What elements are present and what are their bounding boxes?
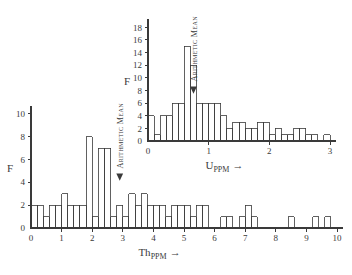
histogram-bar	[43, 217, 49, 228]
x-tick-label: 10	[333, 233, 343, 243]
histogram-bar	[31, 205, 37, 228]
histogram-bar	[275, 128, 281, 141]
thorium-histogram-y-axis-title: F	[7, 162, 13, 174]
histogram-bar	[245, 205, 251, 228]
histogram-bar	[313, 217, 319, 228]
histogram-figure: 0123246810121416180FUPPM→Arithmetic Mean…	[0, 0, 352, 275]
y-tick-label: 6	[21, 155, 26, 165]
y-tick-label: 16	[133, 35, 143, 45]
histogram-bar	[215, 103, 221, 141]
thorium-histogram-group: 0123456789102468100FThPPM→Arithmetic Mea…	[7, 103, 343, 261]
x-tick-label: 1	[59, 233, 64, 243]
histogram-bar	[86, 137, 92, 228]
x-tick-label: 5	[182, 233, 187, 243]
histogram-bar	[251, 217, 257, 228]
histogram-bar	[325, 217, 331, 228]
histogram-bar	[257, 122, 263, 141]
histogram-bar	[196, 205, 202, 228]
histogram-bar	[147, 205, 153, 228]
x-tick-label: 6	[212, 233, 217, 243]
histogram-bar	[221, 116, 227, 141]
x-tick-label: 2	[267, 146, 272, 156]
uranium-histogram-group: 0123246810121416180FUPPM→Arithmetic Mean	[124, 16, 336, 174]
y-tick-label: 2	[138, 124, 143, 134]
mean-arrow-icon	[190, 86, 197, 93]
mean-arrow-icon	[116, 173, 123, 180]
histogram-bar	[227, 128, 233, 141]
y-tick-label: 12	[133, 60, 142, 70]
uranium-histogram-bars	[148, 46, 330, 141]
histogram-bar	[221, 217, 227, 228]
x-axis-title-text: ThPPM→	[138, 246, 180, 261]
histogram-bar	[166, 116, 172, 141]
x-tick-label: 1	[206, 146, 211, 156]
histogram-bar	[92, 217, 98, 228]
x-tick-label: 8	[274, 233, 279, 243]
thorium-histogram-bars	[31, 137, 331, 228]
histogram-bar	[197, 103, 203, 141]
histogram-bar	[239, 217, 245, 228]
mean-annotation-label: Arithmetic Mean	[116, 103, 125, 169]
histogram-bar	[80, 205, 86, 228]
x-tick-label: 0	[146, 146, 151, 156]
uranium-histogram-mean-annotation: Arithmetic Mean	[190, 16, 199, 94]
y-tick-label: 4	[138, 111, 143, 121]
histogram-bar	[312, 135, 318, 141]
histogram-bar	[160, 116, 166, 141]
histogram-bar	[227, 217, 233, 228]
histogram-bar	[190, 217, 196, 228]
histogram-bar	[117, 205, 123, 228]
histogram-bar	[184, 205, 190, 228]
histogram-bar	[294, 128, 300, 141]
uranium-histogram-y-axis-title: F	[124, 75, 130, 87]
histogram-bar	[74, 205, 80, 228]
figure-root: 0123246810121416180FUPPM→Arithmetic Mean…	[0, 0, 352, 275]
histogram-bar	[160, 205, 166, 228]
histogram-bar	[153, 205, 159, 228]
y-tick-label: 2	[21, 200, 26, 210]
histogram-bar	[172, 205, 178, 228]
thorium-histogram-mean-annotation: Arithmetic Mean	[116, 103, 125, 181]
histogram-bar	[288, 217, 294, 228]
x-tick-label: 3	[121, 233, 126, 243]
x-tick-label: 2	[90, 233, 95, 243]
y-tick-label: 4	[21, 177, 26, 187]
histogram-bar	[178, 205, 184, 228]
histogram-bar	[269, 135, 275, 141]
histogram-bar	[129, 194, 135, 228]
histogram-bar	[62, 194, 68, 228]
histogram-bar	[141, 194, 147, 228]
histogram-bar	[288, 135, 294, 141]
y-tick-label: 14	[133, 48, 143, 58]
y-tick-label: 8	[21, 132, 26, 142]
histogram-bar	[68, 205, 74, 228]
histogram-bar	[148, 116, 154, 141]
histogram-bar	[49, 205, 55, 228]
histogram-bar	[178, 103, 184, 141]
y-tick-label: 10	[133, 73, 143, 83]
histogram-bar	[306, 135, 312, 141]
histogram-bar	[135, 205, 141, 228]
histogram-bar	[263, 122, 269, 141]
histogram-bar	[172, 103, 178, 141]
histogram-bar	[209, 103, 215, 141]
histogram-bar	[202, 205, 208, 228]
histogram-bar	[245, 128, 251, 141]
histogram-bar	[239, 122, 245, 141]
y-tick-label: 6	[138, 98, 143, 108]
histogram-bar	[123, 217, 129, 228]
histogram-bar	[324, 135, 330, 141]
uranium-histogram-x-axis-title: UPPM→	[205, 159, 243, 174]
histogram-bar	[233, 122, 239, 141]
y-tick-label: 10	[16, 109, 26, 119]
x-tick-label: 9	[304, 233, 309, 243]
x-tick-label: 4	[151, 233, 156, 243]
histogram-bar	[98, 148, 104, 228]
thorium-histogram-x-axis-title: ThPPM→	[138, 246, 180, 261]
histogram-bar	[55, 205, 61, 228]
mean-annotation-label: Arithmetic Mean	[190, 16, 199, 82]
histogram-bar	[111, 217, 117, 228]
histogram-bar	[203, 103, 209, 141]
histogram-bar	[37, 205, 43, 228]
histogram-bar	[166, 217, 172, 228]
